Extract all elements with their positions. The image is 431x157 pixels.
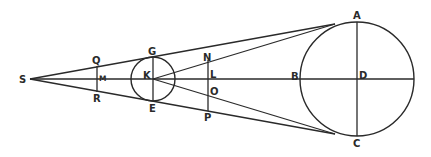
label-L: L (210, 69, 217, 80)
label-C: C (353, 138, 360, 149)
label-A: A (353, 10, 361, 21)
label-N: N (203, 52, 211, 63)
label-R: R (93, 93, 101, 104)
geometry-diagram: S Q M R G K E N L O P B D A C (0, 0, 431, 157)
label-Q: Q (92, 55, 101, 66)
label-P: P (204, 112, 211, 123)
label-B: B (291, 71, 299, 82)
label-M: M (99, 74, 106, 83)
label-S: S (19, 74, 26, 85)
label-G: G (148, 46, 156, 57)
label-O: O (210, 86, 219, 97)
label-K: K (143, 70, 152, 81)
label-D: D (359, 70, 367, 81)
label-E: E (149, 103, 156, 114)
